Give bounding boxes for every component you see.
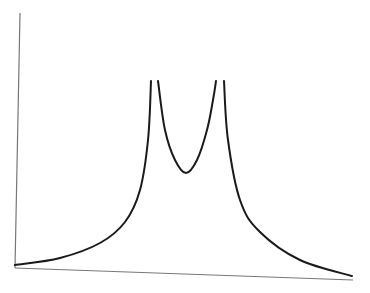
resonance-chart <box>0 0 370 293</box>
curve-right-branch <box>224 81 352 276</box>
x-axis <box>15 268 353 280</box>
y-axis <box>15 13 20 268</box>
curve-left-branch <box>15 81 151 265</box>
curve-middle-dip <box>158 81 216 173</box>
chart-canvas <box>0 0 370 293</box>
